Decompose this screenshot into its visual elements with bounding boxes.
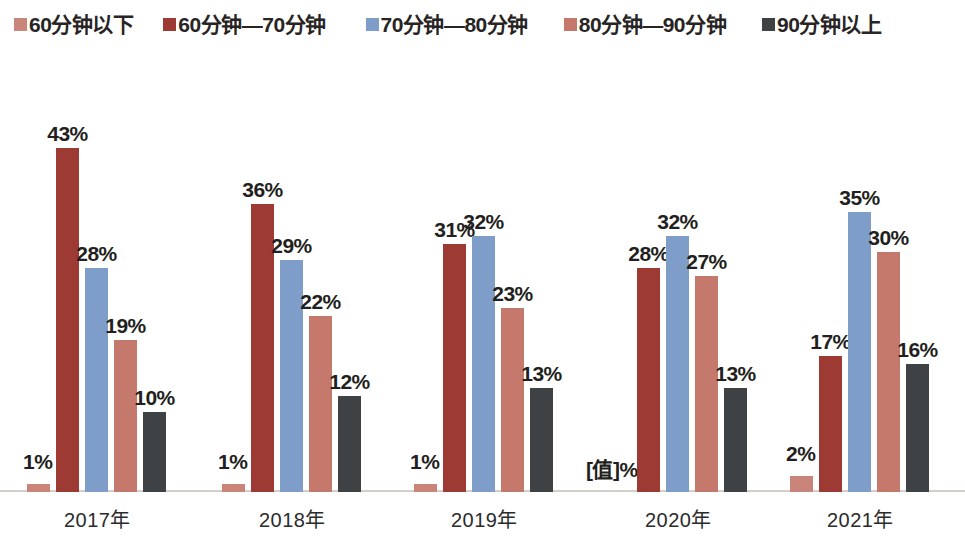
bar-value-label: [值]% xyxy=(586,459,638,480)
bar-value-label: 13% xyxy=(715,363,756,384)
legend-item[interactable]: 60分钟以下 xyxy=(14,14,133,35)
legend-swatch-icon xyxy=(564,18,577,31)
bar-value-label: 29% xyxy=(271,235,312,256)
bar[interactable] xyxy=(143,412,166,492)
bar-value-label: 19% xyxy=(105,315,146,336)
bar-cell[interactable]: 27% xyxy=(695,92,718,492)
bar-value-label: 30% xyxy=(868,227,909,248)
bar-cell[interactable]: 16% xyxy=(906,92,929,492)
legend-swatch-icon xyxy=(366,18,379,31)
bar-value-label: 32% xyxy=(657,211,698,232)
bar-chart: 60分钟以下60分钟—70分钟70分钟—80分钟80分钟—90分钟90分钟以上 … xyxy=(0,0,965,539)
bar-value-label: 28% xyxy=(76,243,117,264)
bar[interactable] xyxy=(56,148,79,492)
bar-value-label: 13% xyxy=(521,363,562,384)
bar[interactable] xyxy=(443,244,466,492)
category-label: 2020年 xyxy=(608,504,749,533)
bar-group: [值]%28%32%27%13% xyxy=(608,92,749,492)
legend-item-label: 60分钟—70分钟 xyxy=(178,14,325,35)
bar-value-label: 23% xyxy=(492,283,533,304)
bar[interactable] xyxy=(877,252,900,492)
bar-value-label: 16% xyxy=(897,339,938,360)
bar-cell[interactable]: 31% xyxy=(443,92,466,492)
bar[interactable] xyxy=(472,236,495,492)
category-label: 2018年 xyxy=(222,504,363,533)
bar-value-label: 1% xyxy=(218,451,247,472)
bar-cell[interactable]: 13% xyxy=(530,92,553,492)
category-label: 2021年 xyxy=(790,504,931,533)
legend-item-label: 70分钟—80分钟 xyxy=(381,14,528,35)
bar-group-bars: 2%17%35%30%16% xyxy=(790,92,929,492)
bar-cell[interactable]: 2% xyxy=(790,92,813,492)
legend-swatch-icon xyxy=(14,18,27,31)
legend-item[interactable]: 60分钟—70分钟 xyxy=(163,14,325,35)
bar-cell[interactable]: 28% xyxy=(637,92,660,492)
bar-cell[interactable]: 1% xyxy=(222,92,245,492)
bar-value-label: 22% xyxy=(300,291,341,312)
bar-group-bars: [值]%28%32%27%13% xyxy=(608,92,747,492)
bar-cell[interactable]: 32% xyxy=(666,92,689,492)
legend-item[interactable]: 70分钟—80分钟 xyxy=(366,14,528,35)
bar-value-label: 35% xyxy=(839,187,880,208)
category-label: 2017年 xyxy=(27,504,168,533)
bar-group: 1%43%28%19%10% xyxy=(27,92,168,492)
bar-cell[interactable]: 1% xyxy=(414,92,437,492)
bar-cell[interactable]: 22% xyxy=(309,92,332,492)
bar-cell[interactable]: 13% xyxy=(724,92,747,492)
legend-item-label: 80分钟—90分钟 xyxy=(579,14,726,35)
bar-value-label: 28% xyxy=(628,243,669,264)
bar[interactable] xyxy=(338,396,361,492)
bar[interactable] xyxy=(848,212,871,492)
bar-group: 1%36%29%22%12% xyxy=(222,92,363,492)
bar-value-label: 10% xyxy=(134,387,175,408)
bar[interactable] xyxy=(637,268,660,492)
bar[interactable] xyxy=(724,388,747,492)
bar-group-bars: 1%36%29%22%12% xyxy=(222,92,361,492)
bar[interactable] xyxy=(85,268,108,492)
bar[interactable] xyxy=(309,316,332,492)
bar-cell[interactable]: 1% xyxy=(27,92,50,492)
bar[interactable] xyxy=(501,308,524,492)
bar-cell[interactable]: 36% xyxy=(251,92,274,492)
bar[interactable] xyxy=(666,236,689,492)
legend-item[interactable]: 80分钟—90分钟 xyxy=(564,14,726,35)
legend-item-label: 90分钟以上 xyxy=(777,14,881,35)
bar-cell[interactable]: 19% xyxy=(114,92,137,492)
bar[interactable] xyxy=(790,476,813,492)
bar-value-label: 2% xyxy=(786,443,815,464)
bar[interactable] xyxy=(906,364,929,492)
legend-swatch-icon xyxy=(762,18,775,31)
bar[interactable] xyxy=(27,484,50,492)
bar[interactable] xyxy=(114,340,137,492)
plot-area: 1%43%28%19%10%2017年1%36%29%22%12%2018年1%… xyxy=(0,48,965,539)
bar-value-label: 1% xyxy=(23,451,52,472)
bar-value-label: 1% xyxy=(410,451,439,472)
bar-group: 1%31%32%23%13% xyxy=(414,92,555,492)
bar[interactable] xyxy=(414,484,437,492)
bar-cell[interactable]: 10% xyxy=(143,92,166,492)
bar-cell[interactable]: 23% xyxy=(501,92,524,492)
bar-group-bars: 1%43%28%19%10% xyxy=(27,92,166,492)
legend-swatch-icon xyxy=(163,18,176,31)
bar-cell[interactable]: 28% xyxy=(85,92,108,492)
bar-cell[interactable]: 17% xyxy=(819,92,842,492)
category-label: 2019年 xyxy=(414,504,555,533)
bar[interactable] xyxy=(530,388,553,492)
bar-value-label: 32% xyxy=(463,211,504,232)
bar-cell[interactable]: 30% xyxy=(877,92,900,492)
bar[interactable] xyxy=(819,356,842,492)
chart-legend: 60分钟以下60分钟—70分钟70分钟—80分钟80分钟—90分钟90分钟以上 xyxy=(0,0,965,48)
bar[interactable] xyxy=(222,484,245,492)
bar-cell[interactable]: [值]% xyxy=(608,92,631,492)
bar-cell[interactable]: 12% xyxy=(338,92,361,492)
legend-item[interactable]: 90分钟以上 xyxy=(762,14,881,35)
bar-cell[interactable]: 43% xyxy=(56,92,79,492)
legend-item-label: 60分钟以下 xyxy=(29,14,133,35)
bar-value-label: 12% xyxy=(329,371,370,392)
bar-value-label: 43% xyxy=(47,123,88,144)
bar-group-bars: 1%31%32%23%13% xyxy=(414,92,553,492)
bar-value-label: 17% xyxy=(810,331,851,352)
bar-value-label: 36% xyxy=(242,179,283,200)
bar-value-label: 27% xyxy=(686,251,727,272)
bar-cell[interactable]: 35% xyxy=(848,92,871,492)
